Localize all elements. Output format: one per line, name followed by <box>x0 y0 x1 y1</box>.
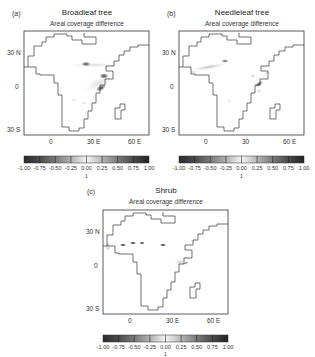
y-tick: 30 N <box>7 49 21 56</box>
x-tick: 30 E <box>87 138 100 145</box>
x-tick: 60 E <box>283 138 296 145</box>
y-tick: 0 <box>170 83 174 90</box>
y-tick: 30 N <box>86 228 100 235</box>
panel-title: Needleleaf tree <box>179 8 305 17</box>
map-plot <box>24 31 149 135</box>
x-tick: 60 E <box>128 138 141 145</box>
panel-subtitle: Areal coverage difference <box>179 20 305 27</box>
y-tick: 30 N <box>162 49 176 56</box>
y-tick: 30 S <box>162 126 175 133</box>
panel-subtitle: Areal coverage difference <box>103 198 229 205</box>
x-tick: 0 <box>128 317 132 324</box>
panel-c: (c) Shrub Areal coverage difference 30 N… <box>79 179 239 354</box>
colorbar-unit: 1 <box>164 351 167 357</box>
x-tick: 30 E <box>166 317 179 324</box>
y-tick: 0 <box>94 262 98 269</box>
y-tick: 30 S <box>7 126 20 133</box>
map-plot <box>179 31 304 135</box>
panel-title: Broadleaf tree <box>24 8 150 17</box>
map-plot <box>103 210 228 314</box>
x-tick: 60 E <box>207 317 220 324</box>
panel-subtitle: Areal coverage difference <box>24 20 150 27</box>
panel-label: (a) <box>12 10 21 17</box>
panel-a: (a) Broadleaf tree Areal coverage differ… <box>0 0 160 175</box>
panel-title: Shrub <box>103 186 229 195</box>
colorbar <box>179 156 304 163</box>
panel-label: (c) <box>87 188 95 195</box>
colorbar-unit: 1 <box>240 173 243 179</box>
y-tick: 30 S <box>86 305 99 312</box>
colorbar <box>103 335 228 342</box>
x-tick: 0 <box>204 138 208 145</box>
panel-label: (b) <box>167 10 176 17</box>
colorbar <box>24 156 149 163</box>
x-tick: 0 <box>49 138 53 145</box>
y-tick: 0 <box>15 83 19 90</box>
panel-b: (b) Needleleaf tree Areal coverage diffe… <box>155 0 315 175</box>
x-tick: 30 <box>242 138 249 145</box>
